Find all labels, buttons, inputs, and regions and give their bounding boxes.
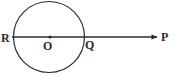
- point-label-P: P: [161, 31, 168, 43]
- point-label-R: R: [1, 32, 10, 44]
- point-label-Q: Q: [85, 39, 94, 51]
- point-label-O: O: [43, 40, 52, 52]
- geometry-diagram: R O Q P: [0, 0, 175, 77]
- arrowhead-icon: [152, 35, 158, 40]
